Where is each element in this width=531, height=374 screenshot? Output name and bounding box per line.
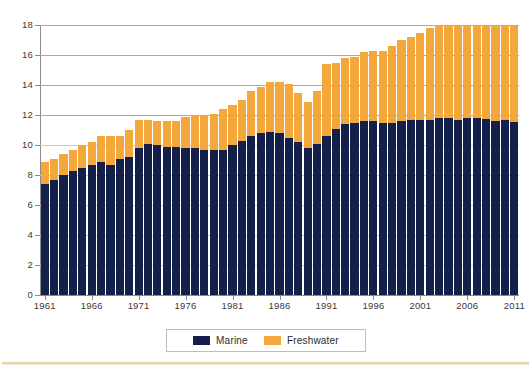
bar-column <box>238 25 246 295</box>
bar-segment-freshwater <box>407 37 415 120</box>
bar-segment-marine <box>322 136 330 295</box>
bar-segment-freshwater <box>228 105 236 146</box>
y-tick-label: 14 <box>5 79 33 90</box>
y-tick-label: 8 <box>5 169 33 180</box>
bar-segment-marine <box>435 118 443 295</box>
bar-column <box>369 25 377 295</box>
bar-segment-freshwater <box>266 82 274 132</box>
bar-column <box>454 25 462 295</box>
bar-segment-marine <box>210 150 218 296</box>
bar-segment-marine <box>125 157 133 295</box>
bar-segment-marine <box>360 121 368 295</box>
bar-segment-marine <box>444 118 452 295</box>
y-tick-label: 18 <box>5 19 33 30</box>
bar-segment-marine <box>247 136 255 295</box>
bar-column <box>106 25 114 295</box>
bar-segment-freshwater <box>322 64 330 136</box>
bar-column <box>416 25 424 295</box>
bar-column <box>59 25 67 295</box>
x-tick-label: 1991 <box>315 300 337 311</box>
bar-column <box>482 25 490 295</box>
x-tick-label: 2011 <box>504 300 525 311</box>
bar-column <box>473 25 481 295</box>
bar-column <box>191 25 199 295</box>
bar-segment-freshwater <box>285 84 293 138</box>
bar-segment-freshwater <box>332 63 340 129</box>
bar-segment-marine <box>388 123 396 296</box>
bar-segment-marine <box>116 159 124 296</box>
bar-column <box>257 25 265 295</box>
x-tick-label: 1961 <box>34 300 56 311</box>
bar-column <box>360 25 368 295</box>
bar-segment-freshwater <box>88 142 96 165</box>
legend-item-freshwater: Freshwater <box>264 335 339 346</box>
bar-segment-marine <box>69 171 77 296</box>
bar-segment-marine <box>106 165 114 296</box>
bar-segment-marine <box>397 121 405 295</box>
bar-segment-marine <box>257 133 265 295</box>
bar-segment-freshwater <box>238 100 246 141</box>
bar-segment-freshwater <box>426 28 434 120</box>
bar-segment-freshwater <box>510 25 518 122</box>
footer-rule-shadow <box>2 364 529 365</box>
bar-segment-freshwater <box>191 115 199 148</box>
bar-segment-freshwater <box>144 120 152 144</box>
bar-segment-freshwater <box>210 114 218 150</box>
bar-segment-marine <box>473 118 481 295</box>
bar-column <box>200 25 208 295</box>
bar-segment-freshwater <box>69 150 77 171</box>
bar-segment-freshwater <box>257 87 265 134</box>
y-tick-label: 6 <box>5 199 33 210</box>
bar-column <box>275 25 283 295</box>
bar-segment-freshwater <box>444 25 452 118</box>
bar-column <box>313 25 321 295</box>
bar-segment-freshwater <box>350 57 358 123</box>
bar-segment-marine <box>275 133 283 295</box>
bar-segment-freshwater <box>388 46 396 123</box>
bar-column <box>88 25 96 295</box>
x-axis-labels: 1961196619711976198119861991199620012006… <box>0 300 531 316</box>
bar-segment-marine <box>50 180 58 296</box>
bar-column <box>172 25 180 295</box>
bar-segment-marine <box>172 147 180 296</box>
bar-segment-marine <box>144 144 152 296</box>
bar-segment-freshwater <box>341 58 349 124</box>
bar-segment-marine <box>228 145 236 295</box>
bar-column <box>379 25 387 295</box>
bar-column <box>332 25 340 295</box>
bar-segment-freshwater <box>200 115 208 150</box>
bar-segment-freshwater <box>397 40 405 121</box>
legend-swatch-marine-icon <box>193 336 210 345</box>
bar-column <box>491 25 499 295</box>
bar-column <box>163 25 171 295</box>
bar-segment-marine <box>332 129 340 296</box>
bar-segment-marine <box>501 120 509 295</box>
bar-column <box>69 25 77 295</box>
bar-column <box>407 25 415 295</box>
bar-segment-marine <box>379 123 387 296</box>
bar-segment-marine <box>482 119 490 295</box>
bar-segment-marine <box>153 145 161 295</box>
bar-column <box>304 25 312 295</box>
bar-segment-freshwater <box>163 121 171 147</box>
bar-segment-freshwater <box>473 25 481 118</box>
bar-segment-marine <box>78 168 86 296</box>
bar-segment-freshwater <box>59 154 67 175</box>
chart-legend: Marine Freshwater <box>166 329 366 352</box>
y-tick-label: 16 <box>5 49 33 60</box>
x-tick-label: 1976 <box>175 300 197 311</box>
bar-segment-freshwater <box>482 25 490 119</box>
bar-segment-freshwater <box>416 33 424 120</box>
bar-segment-marine <box>463 118 471 295</box>
bar-segment-marine <box>181 148 189 295</box>
legend-item-marine: Marine <box>193 335 248 346</box>
bar-segment-marine <box>491 121 499 295</box>
bar-column <box>41 25 49 295</box>
bar-segment-marine <box>369 121 377 295</box>
bar-segment-marine <box>238 141 246 296</box>
bar-column <box>144 25 152 295</box>
x-tick-label: 1971 <box>128 300 150 311</box>
x-tick-label: 1996 <box>362 300 384 311</box>
bar-column <box>210 25 218 295</box>
bar-segment-freshwater <box>172 121 180 147</box>
